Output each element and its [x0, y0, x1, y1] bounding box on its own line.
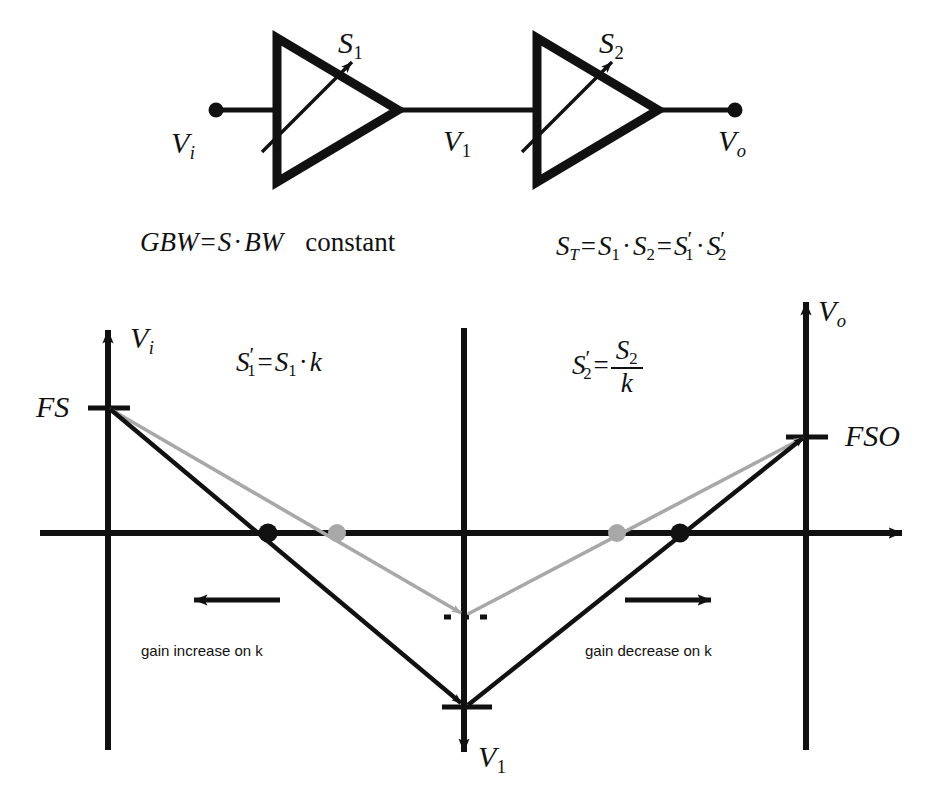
- fs-label: FS: [36, 392, 69, 422]
- stage1-gain-label: S1: [338, 28, 363, 63]
- vi-axis-label: Vi: [130, 323, 154, 358]
- circuit-output-label: Vo: [718, 126, 746, 161]
- diagram-vector-layer: [0, 0, 943, 789]
- v1-axis-label: V1: [478, 742, 506, 777]
- figure-canvas: Vi V1 Vo S1 S2 GBW=S·BWconstant ST=S1·S2…: [0, 0, 943, 789]
- circuit-input-label: Vi: [171, 128, 195, 163]
- equation-total-gain: ST=S1·S2=S′1·S′2: [556, 229, 726, 264]
- equation-s2-prime: S′2=S2k: [572, 337, 643, 398]
- gray-zero-crossing-left: [328, 524, 346, 542]
- vo-axis-label: Vo: [818, 296, 846, 331]
- gray-zero-crossing-right: [608, 524, 626, 542]
- gray-transfer-traces: [110, 409, 803, 614]
- stage2-gain-label: S2: [599, 28, 624, 63]
- gray-stage1-trace: [110, 409, 461, 613]
- equation-s1-prime: S′1=S1·k: [236, 345, 322, 380]
- gain-decrease-annotation: gain decrease on k: [585, 643, 712, 658]
- black-zero-crossing-left: [259, 524, 278, 543]
- black-zero-crossing-right: [671, 524, 690, 543]
- circuit-mid-label: V1: [443, 126, 471, 161]
- fso-label: FSO: [845, 421, 900, 451]
- black-stage2-trace: [468, 438, 803, 705]
- equation-gbw: GBW=S·BWconstant: [140, 229, 395, 256]
- gain-increase-annotation: gain increase on k: [141, 643, 263, 658]
- s2-over-k-fraction: S2k: [611, 337, 643, 398]
- output-node-dot: [728, 103, 743, 118]
- gray-stage2-trace: [468, 438, 803, 614]
- black-transfer-traces: [110, 409, 803, 705]
- circuit-schematic: [209, 38, 743, 182]
- plot-axes: [40, 302, 902, 752]
- amplifier-2-triangle: [537, 38, 658, 182]
